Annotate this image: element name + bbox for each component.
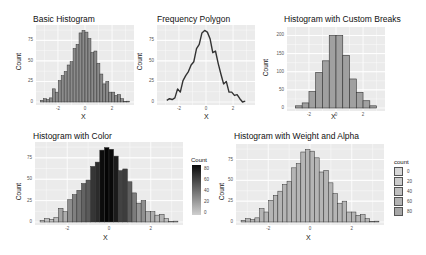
tick-label: 0	[80, 106, 90, 111]
chart-title: Frequency Polygon	[157, 14, 230, 24]
legend-label: 60	[407, 199, 412, 204]
legend-swatch	[394, 187, 403, 196]
tick-label: 50	[22, 176, 32, 181]
tick-label: 2	[146, 226, 156, 231]
tick-label: 0	[23, 99, 33, 104]
x-axis-label: X	[306, 234, 311, 241]
tick-label: 0	[274, 105, 284, 110]
legend-swatch	[394, 167, 403, 176]
tick-label: 0	[22, 219, 32, 224]
x-axis-label: X	[103, 234, 108, 241]
tick-label: 0	[144, 99, 154, 104]
legend-label: 40	[204, 188, 209, 193]
tick-label: 25	[223, 198, 233, 203]
tick-label: 75	[144, 37, 154, 42]
tick-label: 100	[274, 69, 284, 74]
legend-label: 40	[407, 189, 412, 194]
y-axis-label: Count	[136, 53, 143, 70]
tick-label: 75	[23, 37, 33, 42]
chart-title: Histogram with Color	[33, 131, 112, 141]
tick-label: -2	[174, 106, 184, 111]
legend-label: 60	[204, 177, 209, 182]
plot-area	[157, 25, 255, 105]
x-axis-label: X	[204, 113, 209, 120]
tick-label: 50	[274, 87, 284, 92]
legend-label: 80	[204, 166, 209, 171]
chart-title: Histogram with Custom Breaks	[284, 14, 401, 24]
legend-label: 0	[204, 210, 207, 215]
plot-area	[36, 25, 134, 105]
tick-label: 0	[201, 106, 211, 111]
tick-label: 50	[23, 58, 33, 63]
tick-label: 2	[107, 106, 117, 111]
y-axis-label: Count	[262, 59, 269, 76]
tick-label: 2	[358, 112, 368, 117]
y-axis-label: Count	[15, 53, 22, 70]
tick-label: 0	[104, 226, 114, 231]
tick-label: -2	[62, 226, 72, 231]
legend-swatch	[394, 197, 403, 206]
plot-area	[287, 27, 385, 111]
tick-label: 2	[228, 106, 238, 111]
tick-label: 200	[274, 32, 284, 37]
color-gradient-bar	[192, 165, 201, 215]
legend-swatch	[394, 207, 403, 216]
legend-swatch	[394, 177, 403, 186]
tick-label: 75	[22, 155, 32, 160]
tick-label: 25	[22, 198, 32, 203]
x-axis-label: X	[81, 113, 86, 120]
tick-label: -2	[263, 226, 273, 231]
legend-label: 20	[407, 179, 412, 184]
tick-label: 0	[305, 226, 315, 231]
chart-title: Histogram with Weight and Alpha	[234, 131, 359, 141]
tick-label: 0	[331, 112, 341, 117]
chart-title: Basic Histogram	[33, 14, 95, 24]
legend-label: 0	[407, 169, 410, 174]
tick-label: 25	[23, 78, 33, 83]
tick-label: 2	[347, 226, 357, 231]
plot-area	[35, 142, 183, 225]
plot-area	[236, 144, 384, 225]
tick-label: 25	[144, 78, 154, 83]
legend-label: 20	[204, 199, 209, 204]
tick-label: -2	[53, 106, 63, 111]
tick-label: -2	[304, 112, 314, 117]
tick-label: 50	[223, 177, 233, 182]
tick-label: 150	[274, 51, 284, 56]
legend-label: 80	[407, 209, 412, 214]
tick-label: 0	[223, 219, 233, 224]
legend-title: Count	[191, 157, 207, 163]
tick-label: 75	[223, 157, 233, 162]
tick-label: 50	[144, 58, 154, 63]
legend-title: count	[394, 159, 409, 165]
